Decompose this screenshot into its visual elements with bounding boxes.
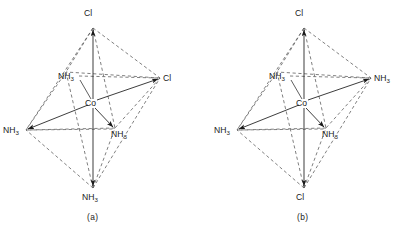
ligand-label-nh3-right-b: NH3: [374, 73, 390, 84]
ligand-label-cl-right-a: Cl: [163, 73, 171, 83]
ligand-label-cl-top-b: Cl: [295, 8, 303, 18]
bonds-b: [239, 30, 369, 186]
bonds-a: [28, 30, 158, 186]
bond-co-nh3-front-a: [95, 108, 113, 127]
ligand-label-cl-top-a: Cl: [84, 8, 92, 18]
ligand-label-nh3-left-b: NH3: [214, 125, 230, 136]
ligand-label-nh3-bottom-a: NH3: [82, 192, 98, 203]
center-atom-label-b: Co: [296, 98, 307, 108]
diagram-panel-b: Cl NH3 NH3 NH3 NH3 Cl Co (b): [214, 8, 390, 222]
ligand-label-cl-bottom-b: Cl: [296, 192, 304, 202]
bond-co-nh3-left-a: [28, 105, 88, 129]
bond-co-nh3-back-b: [291, 80, 302, 99]
ligand-label-nh3-front-a: NH3: [111, 129, 127, 140]
figure-container: Cl Cl NH3 NH3 NH3 NH3 Co (a): [0, 0, 398, 233]
ligand-label-nh3-left-a: NH3: [3, 125, 19, 136]
panel-caption-b: (b): [297, 212, 308, 222]
center-atom-label-a: Co: [85, 98, 96, 108]
diagram-panel-a: Cl Cl NH3 NH3 NH3 NH3 Co (a): [3, 8, 171, 222]
bond-co-nh3-front-b: [306, 108, 324, 127]
ligand-label-nh3-front-b: NH3: [322, 129, 338, 140]
panel-caption-a: (a): [87, 212, 98, 222]
bond-co-nh3-left-b: [239, 105, 299, 129]
bond-co-nh3-back-a: [80, 80, 91, 99]
